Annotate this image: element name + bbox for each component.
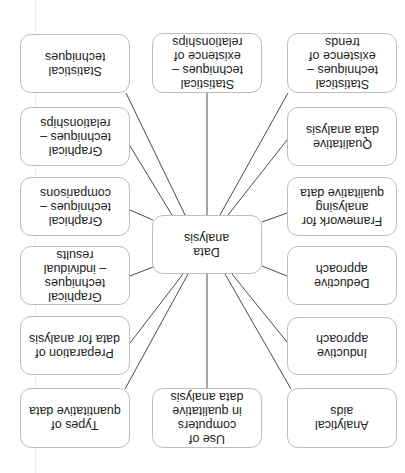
link-graphical-relationships xyxy=(130,146,172,215)
link-graphical-individual-results xyxy=(130,267,153,276)
node-preparation-of-data: Preparation of data for analysis xyxy=(20,316,130,375)
node-label: Deductive approach xyxy=(308,262,376,290)
node-framework-qualitative: Framework for analysing qualitative data xyxy=(287,177,397,236)
node-label: Types of quantitative data xyxy=(23,404,127,432)
node-label: Inductive approach xyxy=(310,332,374,360)
node-label: Graphical techniques – individual result… xyxy=(21,248,129,304)
link-statistical-trends xyxy=(220,93,288,215)
node-deductive-approach: Deductive approach xyxy=(287,246,397,305)
node-label: Framework for analysing qualitative data xyxy=(294,186,390,228)
node-graphical-individual-results: Graphical techniques – individual result… xyxy=(20,246,130,305)
node-label: Analytical aids xyxy=(309,404,375,432)
center-node-data-analysis: Data analysis xyxy=(152,215,262,274)
node-graphical-comparisons: Graphical techniques – comparisons xyxy=(20,177,130,236)
link-types-of-quantitative-data xyxy=(125,274,188,389)
link-framework-qualitative xyxy=(262,213,287,222)
node-label: Graphical techniques – relationships xyxy=(34,116,117,158)
node-label: Statistical techniques – existence of re… xyxy=(166,35,249,91)
node-label: Qualitative data analysis xyxy=(300,123,385,151)
node-label: Statistical techniques xyxy=(39,50,111,78)
node-label: Preparation of data for analysis xyxy=(23,332,126,360)
node-inductive-approach: Inductive approach xyxy=(287,317,397,375)
link-graphical-comparisons xyxy=(130,210,153,220)
node-label: Graphical techniques – comparisons xyxy=(34,186,117,228)
link-deductive-approach xyxy=(262,266,287,276)
node-statistical-trends: Statistical techniques – existence of tr… xyxy=(287,33,397,93)
node-label: Use of computers in qualitative data ana… xyxy=(153,390,261,446)
center-label: Data analysis xyxy=(178,231,235,259)
link-inductive-approach xyxy=(232,274,287,342)
node-statistical-techniques: Statistical techniques xyxy=(20,34,130,93)
node-use-of-computers: Use of computers in qualitative data ana… xyxy=(152,388,262,448)
link-preparation-of-data xyxy=(130,274,183,343)
node-qualitative-data-analysis: Qualitative data analysis xyxy=(287,107,397,166)
link-analytical-aids xyxy=(225,274,291,389)
node-label: Statistical techniques – existence of tr… xyxy=(301,35,384,91)
link-qualitative-data-analysis xyxy=(228,140,287,215)
node-types-of-quantitative-data: Types of quantitative data xyxy=(20,388,130,448)
node-statistical-relationships: Statistical techniques – existence of re… xyxy=(152,33,262,93)
node-analytical-aids: Analytical aids xyxy=(287,388,397,448)
node-graphical-relationships: Graphical techniques – relationships xyxy=(20,107,130,166)
